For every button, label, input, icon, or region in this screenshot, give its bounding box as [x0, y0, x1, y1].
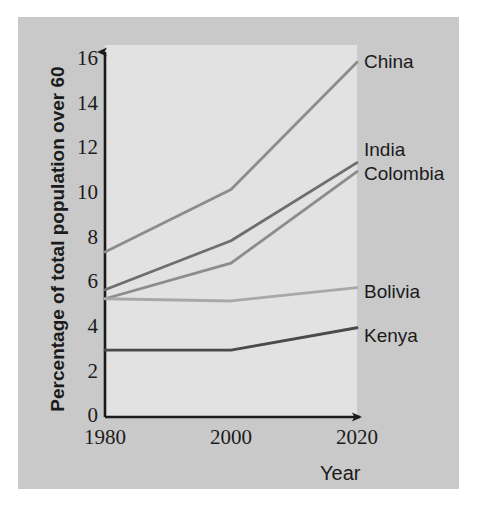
series-lines-group	[105, 62, 357, 350]
series-line-india	[105, 163, 357, 290]
series-line-kenya	[105, 328, 357, 350]
chart-figure: 16 14 12 10 8 6 4 2 0 1980 2000 2020 Per…	[0, 0, 477, 507]
series-line-china	[105, 62, 357, 252]
series-line-bolivia	[105, 288, 357, 301]
chart-canvas	[0, 0, 477, 507]
